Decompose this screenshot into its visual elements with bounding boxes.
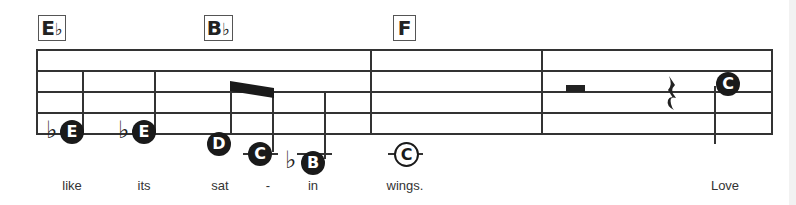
note-e-flat: E (132, 120, 156, 144)
page-edge (789, 0, 796, 205)
barline-end (771, 49, 773, 135)
note-c: C (716, 72, 740, 96)
chord-root: E (41, 16, 55, 40)
barline-2 (541, 49, 543, 135)
staff-line-3 (36, 91, 772, 93)
lyric-its: its (138, 178, 151, 193)
note-stem (324, 91, 326, 159)
flat-icon: ♭ (46, 118, 57, 142)
note-stem (154, 70, 156, 133)
flat-icon: ♭ (118, 118, 129, 142)
note-e-flat: E (60, 120, 84, 144)
chord-symbol-e-flat: E♭ (38, 15, 66, 41)
note-stem (82, 70, 84, 133)
half-rest-icon (566, 85, 585, 92)
chord-symbol-b-flat: B♭ (204, 15, 233, 41)
lyric-like: like (62, 178, 82, 193)
barline-1 (370, 49, 372, 135)
quarter-rest-icon (664, 75, 680, 111)
chord-accidental: ♭ (55, 19, 63, 39)
chord-root: F (398, 16, 412, 40)
chord-root: B (207, 16, 222, 40)
lyric-wings: wings. (387, 178, 424, 193)
lyric-in: in (308, 178, 318, 193)
staff-line-4 (36, 112, 772, 114)
flat-icon: ♭ (285, 148, 296, 172)
chord-accidental: ♭ (222, 19, 230, 39)
eighth-beam (230, 80, 275, 100)
lyric-love: Love (711, 178, 739, 193)
note-d: D (207, 132, 231, 156)
note-b-flat: B (301, 151, 325, 175)
note-c: C (248, 142, 272, 166)
chord-symbol-f: F (393, 15, 416, 41)
note-stem (714, 86, 716, 144)
lyric-hyphen: - (266, 178, 270, 193)
staff-line-2 (36, 70, 772, 72)
note-c-whole: C (394, 142, 419, 167)
lyric-sat: sat (211, 178, 228, 193)
staff-line-1 (36, 49, 772, 51)
barline-start (36, 49, 38, 135)
